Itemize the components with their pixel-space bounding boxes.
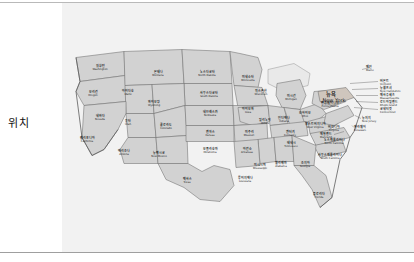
state-label: 루이지애나Louisiana — [238, 175, 253, 183]
state-label: 조지아Georgia — [300, 160, 311, 168]
state-label: 메릴랜드Maryland — [320, 131, 332, 139]
state-label: 델라웨어Delaware — [354, 124, 367, 132]
state-label: 인디애나Indiana — [278, 115, 290, 123]
field-label-column: 위치 — [0, 3, 62, 252]
state-label: 몬태나Montana — [152, 69, 164, 77]
state-label: 오클라호마Oklahoma — [203, 146, 218, 154]
state-label: 미시간Michigan — [285, 93, 297, 101]
state-label: 메인Maine — [366, 64, 374, 72]
state-label: 노스다코타North Dakota — [198, 69, 216, 77]
state-label: 유타Utah — [125, 118, 132, 126]
state-label: 미네소타Minnesota — [241, 74, 255, 82]
state-label: 뉴저지New Jersey — [362, 115, 377, 123]
state-label: 미주리Missouri — [244, 129, 255, 137]
state-label: 앨라배마Alabama — [275, 160, 287, 168]
state-label: 웨스트버지니아West Virginia — [305, 121, 326, 129]
us-states-map: 워싱턴Washington몬태나Montana노스다코타North Dakota… — [62, 3, 414, 252]
state-label: 캔자스Kansas — [205, 129, 215, 137]
location-field-label: 위치 — [8, 114, 29, 130]
divider-bottom — [0, 252, 414, 253]
state-label: 위스콘신Wisconsin — [255, 88, 268, 96]
state-label: 사우스캐롤라이나South Carolina — [318, 152, 342, 160]
state-label: 와이오밍Wyoming — [148, 99, 161, 107]
state-label: 뉴멕시코New Mexico — [151, 150, 167, 158]
state-label: 캘리포니아California — [80, 135, 95, 143]
us-map-panel: 워싱턴Washington몬태나Montana노스다코타North Dakota… — [62, 3, 414, 252]
state-label: 애리조나Arizona — [118, 148, 130, 156]
state-label: 콜로라도Colorado — [160, 122, 172, 130]
state-label: 일리노이Illinois — [259, 117, 271, 125]
state-label: 사우스다코타South Dakota — [200, 90, 218, 98]
state-label: 네바다Nevada — [95, 113, 105, 121]
state-label: 오리건Oregon — [88, 89, 98, 97]
location-field-row: 위치 — [0, 0, 414, 262]
state-label: 플로리다Florida — [313, 191, 325, 199]
state-label: 텍사스Texas — [183, 176, 192, 184]
state-label: 네브래스카Nebraska — [203, 109, 218, 117]
state-label: 미시시피Mississippi — [253, 162, 267, 170]
